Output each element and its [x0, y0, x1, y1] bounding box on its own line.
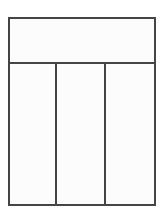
region-column-right[interactable]	[105, 63, 155, 205]
diagram-canvas	[0, 0, 163, 214]
layout-wireframe-svg	[0, 0, 163, 214]
region-column-left[interactable]	[9, 63, 56, 205]
region-header-band[interactable]	[9, 18, 155, 63]
region-column-center[interactable]	[56, 63, 105, 205]
